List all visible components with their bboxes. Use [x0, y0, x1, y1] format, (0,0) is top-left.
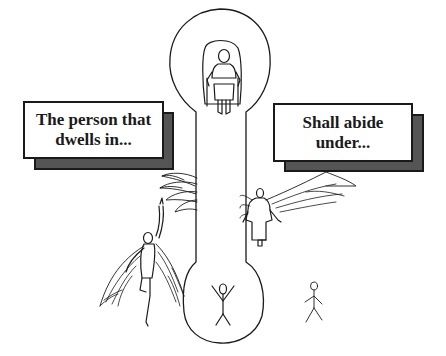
sketch-drawing: [0, 0, 446, 356]
left-caption-line2: dwells in...: [36, 130, 151, 150]
inner-stick-figure: [212, 284, 234, 325]
right-caption-box: Shall abide under...: [273, 103, 413, 162]
left-caption-box: The person that dwells in...: [23, 101, 164, 159]
left-caption-line1: The person that: [36, 110, 151, 130]
right-angel: [240, 172, 356, 246]
capsule-outline: [170, 9, 270, 343]
illustration-canvas: The person that dwells in... Shall abide…: [0, 0, 446, 356]
right-caption-line1: Shall abide: [303, 113, 384, 133]
outer-stick-figure: [305, 282, 322, 322]
right-caption-line2: under...: [303, 133, 384, 153]
upper-left-wing: [160, 173, 197, 212]
left-winged-figure: [100, 198, 184, 326]
